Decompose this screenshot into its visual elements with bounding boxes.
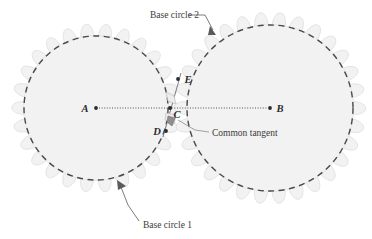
point-marker-c: [168, 106, 172, 110]
label-point-d: D: [152, 126, 161, 137]
leader-base-circle-1: [121, 187, 139, 221]
gear-diagram-svg: Base circle 2 Base circle 1 Common tange…: [0, 0, 372, 239]
label-point-e: E: [183, 74, 191, 85]
label-point-a: A: [80, 103, 88, 114]
label-base-circle-1: Base circle 1: [143, 220, 192, 230]
label-common-tangent: Common tangent: [212, 128, 278, 138]
gear-diagram-canvas: Base circle 2 Base circle 1 Common tange…: [0, 0, 372, 239]
point-marker-a: [94, 106, 98, 110]
label-point-b: B: [275, 103, 283, 114]
point-marker-d: [164, 129, 168, 133]
point-marker-b: [268, 106, 272, 110]
label-point-c: C: [173, 109, 181, 120]
point-marker-e: [176, 77, 180, 81]
label-base-circle-2: Base circle 2: [150, 10, 199, 20]
